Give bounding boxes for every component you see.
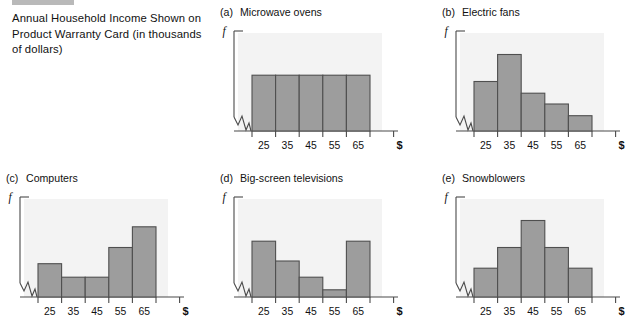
x-axis-tick-label: 55	[115, 306, 127, 317]
histogram-bar	[299, 75, 323, 131]
chart-name-c: Computers	[26, 172, 78, 184]
chart-title-b: (b)Electric fans	[442, 6, 520, 18]
histogram-bar	[498, 248, 522, 298]
histogram-bar	[38, 264, 62, 297]
x-axis-tick-label: 45	[527, 140, 539, 151]
histogram-bar	[62, 277, 86, 297]
chart-name-e: Snowblowers	[462, 172, 525, 184]
chart-panel-d: (d)Big-screen televisions 2535455565$f	[218, 172, 404, 322]
chart-letter-d: (d)	[220, 172, 240, 184]
chart-title-e: (e)Snowblowers	[442, 172, 525, 184]
histogram-bar	[85, 277, 109, 297]
x-axis-tick-label: 65	[574, 306, 586, 317]
x-axis-tick-label: 65	[574, 140, 586, 151]
x-axis-tick-label: 65	[138, 306, 150, 317]
chart-name-a: Microwave ovens	[240, 6, 322, 18]
histogram-bar	[132, 227, 156, 297]
histogram-bar	[252, 241, 276, 297]
x-axis-unit-label: $	[397, 305, 403, 317]
histogram-bar	[323, 290, 347, 297]
histogram-bar	[252, 75, 276, 131]
histogram-bar	[545, 248, 569, 298]
chart-title-a: (a)Microwave ovens	[220, 6, 322, 18]
x-axis-tick-label: 55	[329, 306, 341, 317]
chart-panel-c: (c)Computers 2535455565$f	[4, 172, 190, 322]
histogram-bar	[474, 82, 498, 132]
chart-name-b: Electric fans	[462, 6, 520, 18]
histogram-bar	[346, 75, 370, 131]
chart-title-d: (d)Big-screen televisions	[220, 172, 343, 184]
y-axis-label: f	[8, 191, 13, 204]
x-axis-unit-label: $	[183, 305, 189, 317]
y-axis-label: f	[222, 191, 227, 204]
histogram-bar	[346, 241, 370, 297]
x-axis-tick-label: 25	[258, 140, 270, 151]
x-axis-tick-label: 25	[480, 140, 492, 151]
histogram-bar	[521, 93, 545, 131]
x-axis-tick-label: 45	[305, 140, 317, 151]
x-axis-tick-label: 45	[91, 306, 103, 317]
x-axis-tick-label: 45	[527, 306, 539, 317]
chart-title-c: (c)Computers	[6, 172, 78, 184]
chart-plot-e: 2535455565$f	[440, 189, 626, 321]
chart-letter-a: (a)	[220, 6, 240, 18]
chart-panel-a: (a)Microwave ovens 2535455565$f	[218, 6, 404, 156]
x-axis-tick-label: 35	[282, 140, 294, 151]
x-axis-unit-label: $	[619, 305, 625, 317]
histogram-bar	[474, 268, 498, 297]
x-axis-tick-label: 25	[44, 306, 56, 317]
x-axis-tick-label: 55	[551, 306, 563, 317]
x-axis-unit-label: $	[397, 139, 403, 151]
figure-caption: Annual Household Income Shown on Product…	[12, 11, 208, 58]
x-axis-tick-label: 25	[258, 306, 270, 317]
histogram-bar	[568, 268, 592, 297]
histogram-bar	[568, 116, 592, 131]
chart-letter-b: (b)	[442, 6, 462, 18]
chart-plot-b: 2535455565$f	[440, 23, 626, 155]
x-axis-tick-label: 35	[504, 140, 516, 151]
x-axis-tick-label: 65	[352, 140, 364, 151]
histogram-bar	[521, 221, 545, 298]
header-rule	[12, 0, 74, 5]
x-axis-tick-label: 25	[480, 306, 492, 317]
chart-letter-c: (c)	[6, 172, 26, 184]
x-axis-tick-label: 55	[551, 140, 563, 151]
chart-panel-b: (b)Electric fans 2535455565$f	[440, 6, 626, 156]
x-axis-tick-label: 35	[282, 306, 294, 317]
y-axis-label: f	[444, 191, 449, 204]
x-axis-tick-label: 65	[352, 306, 364, 317]
histogram-bar	[498, 55, 522, 132]
chart-panel-e: (e)Snowblowers 2535455565$f	[440, 172, 626, 322]
chart-plot-c: 2535455565$f	[4, 189, 190, 321]
y-axis-label: f	[222, 25, 227, 38]
x-axis-tick-label: 55	[329, 140, 341, 151]
chart-letter-e: (e)	[442, 172, 462, 184]
histogram-bar	[276, 75, 300, 131]
x-axis-tick-label: 35	[68, 306, 80, 317]
x-axis-tick-label: 35	[504, 306, 516, 317]
histogram-bar	[323, 75, 347, 131]
x-axis-unit-label: $	[619, 139, 625, 151]
histogram-bar	[299, 277, 323, 297]
chart-plot-a: 2535455565$f	[218, 23, 404, 155]
x-axis-tick-label: 45	[305, 306, 317, 317]
chart-plot-d: 2535455565$f	[218, 189, 404, 321]
y-axis-label: f	[444, 25, 449, 38]
chart-name-d: Big-screen televisions	[240, 172, 343, 184]
histogram-bar	[276, 261, 300, 297]
histogram-bar	[545, 104, 569, 131]
histogram-bar	[109, 248, 133, 298]
